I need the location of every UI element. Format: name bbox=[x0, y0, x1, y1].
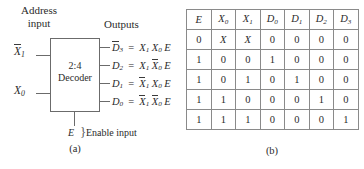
address-input-label-line1: Address bbox=[8, 4, 70, 17]
header-subscript: 3 bbox=[348, 18, 352, 26]
table-header-cell-x0: X0 bbox=[211, 10, 236, 30]
dont-care-value: X bbox=[245, 34, 251, 45]
decoder-block-label: 2:4 Decoder bbox=[51, 60, 99, 84]
table-cell: X bbox=[211, 30, 236, 50]
table-cell: 0 bbox=[236, 90, 261, 110]
table-cell: 0 bbox=[260, 30, 285, 50]
table-cell: 1 bbox=[334, 110, 359, 130]
table-cell: 0 bbox=[309, 70, 334, 90]
d2-output-equation: D2 = X1X0E bbox=[112, 59, 171, 74]
d0-output-equation: D0 = X1X0E bbox=[112, 95, 171, 110]
table-row: 1110001 bbox=[187, 110, 359, 130]
header-subscript: 1 bbox=[299, 18, 303, 26]
table-cell: 0 bbox=[334, 50, 359, 70]
enable-input-letter: E bbox=[68, 127, 74, 138]
table-cell: 0 bbox=[236, 50, 261, 70]
decoder-truth-table: EX0X1D0D1D2D3 0XX00001001000101010011000… bbox=[186, 9, 359, 130]
header-base: E bbox=[196, 14, 202, 25]
table-cell: 0 bbox=[260, 90, 285, 110]
address-input-label-line2: input bbox=[8, 17, 70, 30]
header-base: D bbox=[340, 13, 348, 24]
table-header-cell-d0: D0 bbox=[260, 10, 285, 30]
table-header-cell-d3: D3 bbox=[334, 10, 359, 30]
outputs-label: Outputs bbox=[104, 18, 139, 30]
table-cell: 0 bbox=[334, 30, 359, 50]
table-header-cell-d1: D1 bbox=[285, 10, 310, 30]
table-row: 1100010 bbox=[187, 90, 359, 110]
table-cell: 0 bbox=[334, 90, 359, 110]
table-cell: 1 bbox=[309, 90, 334, 110]
table-cell: 0 bbox=[309, 110, 334, 130]
table-cell: 0 bbox=[211, 50, 236, 70]
decoder-block-label-line2: Decoder bbox=[51, 72, 99, 84]
table-cell: 0 bbox=[187, 30, 212, 50]
x1-input-subscript: 1 bbox=[21, 50, 25, 59]
x0-input-base: X bbox=[14, 84, 21, 96]
table-cell: 1 bbox=[285, 70, 310, 90]
table-cell: 0 bbox=[285, 30, 310, 50]
enable-input-pin bbox=[74, 112, 75, 126]
d0-output-pin bbox=[100, 101, 110, 102]
decoder-block: 2:4 Decoder bbox=[50, 38, 100, 112]
table-header-cell-x1: X1 bbox=[236, 10, 261, 30]
table-cell: 1 bbox=[187, 90, 212, 110]
table-header-cell-d2: D2 bbox=[309, 10, 334, 30]
table-header-cell-e: E bbox=[187, 10, 212, 30]
table-header-row: EX0X1D0D1D2D3 bbox=[187, 10, 359, 30]
table-cell: 1 bbox=[236, 110, 261, 130]
table-cell: X bbox=[236, 30, 261, 50]
x1-input-pin bbox=[36, 55, 50, 56]
panel-a-caption: (a) bbox=[50, 143, 100, 154]
table-cell: 0 bbox=[260, 70, 285, 90]
table-cell: 0 bbox=[260, 110, 285, 130]
decoder-block-label-line1: 2:4 bbox=[51, 60, 99, 72]
x1-input-label: X1 bbox=[14, 44, 25, 59]
header-subscript: 1 bbox=[249, 18, 253, 26]
table-cell: 1 bbox=[260, 50, 285, 70]
header-subscript: 2 bbox=[323, 18, 327, 26]
table-cell: 1 bbox=[211, 110, 236, 130]
table-cell: 1 bbox=[187, 50, 212, 70]
d3-output-pin bbox=[100, 47, 110, 48]
enable-input-caption: Enable input bbox=[86, 127, 137, 138]
x0-input-pin bbox=[36, 93, 50, 94]
table-cell: 0 bbox=[285, 90, 310, 110]
d2-output-pin bbox=[100, 65, 110, 66]
table-row: 1010100 bbox=[187, 70, 359, 90]
address-input-label: Address input bbox=[8, 4, 70, 29]
truth-table-panel: EX0X1D0D1D2D3 0XX00001001000101010011000… bbox=[180, 0, 364, 169]
x0-input-label: X0 bbox=[14, 84, 25, 98]
table-cell: 0 bbox=[211, 70, 236, 90]
table-row: 1001000 bbox=[187, 50, 359, 70]
x1-input-overline-group: X bbox=[14, 44, 21, 57]
table-cell: 0 bbox=[285, 50, 310, 70]
d3-output-equation: D3 = X1X0E bbox=[112, 41, 171, 56]
table-cell: 1 bbox=[187, 110, 212, 130]
table-cell: 0 bbox=[309, 50, 334, 70]
d1-output-equation: D1 = X1X0E bbox=[112, 77, 171, 92]
x0-input-subscript: 0 bbox=[21, 89, 25, 98]
table-cell: 1 bbox=[236, 70, 261, 90]
enable-input-label: E bbox=[68, 127, 74, 138]
d1-output-pin bbox=[100, 83, 110, 84]
table-row: 0XX0000 bbox=[187, 30, 359, 50]
table-cell: 0 bbox=[309, 30, 334, 50]
table-cell: 0 bbox=[285, 110, 310, 130]
table-cell: 1 bbox=[187, 70, 212, 90]
dont-care-value: X bbox=[220, 34, 226, 45]
table-body: 0XX00001001000101010011000101110001 bbox=[187, 30, 359, 130]
panel-b-caption: (b) bbox=[180, 145, 364, 156]
table-cell: 0 bbox=[334, 70, 359, 90]
table-cell: 1 bbox=[211, 90, 236, 110]
decoder-schematic-panel: Address input Outputs 2:4 Decoder X1 X0 … bbox=[0, 0, 180, 169]
header-base: D bbox=[291, 13, 299, 24]
header-subscript: 0 bbox=[225, 18, 229, 26]
header-subscript: 0 bbox=[274, 18, 278, 26]
